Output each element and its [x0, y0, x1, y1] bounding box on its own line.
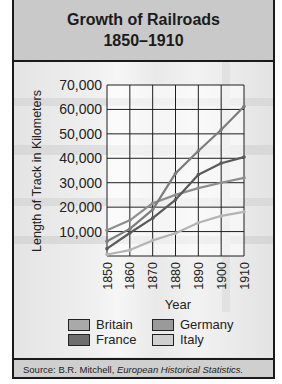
legend-item-germany: Germany	[152, 317, 233, 332]
data-point	[128, 219, 132, 223]
y-axis-label: Length of Track in Kilometers	[30, 90, 44, 252]
x-tick-label: 1880	[169, 262, 183, 290]
data-point	[242, 210, 246, 214]
legend-swatch-italy	[152, 334, 174, 346]
y-tick-label: 60,000	[59, 101, 102, 117]
legend-item-france: France	[68, 332, 136, 347]
source-work: European Historical Statistics.	[117, 364, 243, 375]
data-point	[151, 208, 155, 212]
legend-label-italy: Italy	[180, 332, 204, 347]
x-tick-label: 1890	[192, 262, 206, 290]
data-point	[242, 105, 246, 109]
legend-item-britain: Britain	[68, 317, 133, 332]
data-point	[219, 128, 223, 132]
data-point	[151, 239, 155, 243]
x-tick-label: 1850	[101, 262, 115, 290]
data-point	[174, 193, 178, 197]
y-tick-label: 70,000	[59, 77, 102, 93]
data-point	[219, 161, 223, 165]
y-axis: 10,00020,00030,00040,00050,00060,00070,0…	[59, 77, 102, 240]
chart-subtitle: 1850–1910	[14, 30, 273, 51]
data-point	[219, 214, 223, 218]
data-point	[128, 248, 132, 252]
data-point	[105, 253, 109, 257]
data-point	[105, 240, 109, 244]
data-point	[219, 181, 223, 185]
x-tick-label: 1910	[238, 262, 252, 290]
data-point	[174, 231, 178, 235]
legend-label-britain: Britain	[96, 317, 133, 332]
data-point	[151, 216, 155, 220]
chart-area: 10,00020,00030,00040,00050,00060,00070,0…	[14, 62, 273, 357]
x-tick-label: 1900	[215, 262, 229, 290]
legend-label-germany: Germany	[180, 317, 233, 332]
legend-label-france: France	[96, 332, 136, 347]
data-point	[197, 173, 201, 177]
y-tick-label: 40,000	[59, 150, 102, 166]
data-point	[174, 172, 178, 176]
source-note: Source: B.R. Mitchell, European Historic…	[14, 358, 273, 377]
data-point	[197, 149, 201, 153]
line-chart: 10,00020,00030,00040,00050,00060,00070,0…	[14, 62, 273, 312]
y-tick-label: 50,000	[59, 126, 102, 142]
data-point	[128, 227, 132, 231]
x-tick-label: 1860	[123, 262, 137, 290]
x-tick-label: 1870	[146, 262, 160, 290]
legend-swatch-germany	[152, 319, 174, 331]
title-box: Growth of Railroads 1850–1910	[14, 0, 273, 62]
legend-item-italy: Italy	[152, 332, 204, 347]
legend-swatch-britain	[68, 319, 90, 331]
data-point	[128, 231, 132, 235]
data-point	[105, 247, 109, 251]
data-point	[242, 176, 246, 180]
x-axis-label: Year	[165, 297, 192, 312]
data-point	[105, 229, 109, 233]
y-tick-label: 20,000	[59, 199, 102, 215]
data-point	[174, 198, 178, 202]
source-prefix: Source: B.R. Mitchell,	[23, 364, 117, 375]
data-point	[197, 186, 201, 190]
data-point	[197, 221, 201, 225]
chart-title: Growth of Railroads	[14, 0, 273, 30]
data-point	[151, 201, 155, 205]
legend-swatch-france	[68, 334, 90, 346]
y-tick-label: 10,000	[59, 224, 102, 240]
data-point	[242, 155, 246, 159]
chart-frame: Growth of Railroads 1850–1910 10,00020,0…	[12, 0, 275, 379]
y-tick-label: 30,000	[59, 175, 102, 191]
